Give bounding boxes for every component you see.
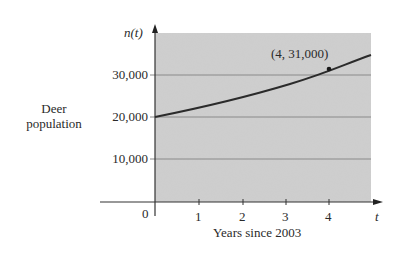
y-axis-function-label: n(t) [124,26,143,40]
data-point-4-31000 [327,67,332,72]
y-tick-label-10000: 10,000 [78,152,148,166]
origin-label: 0 [142,207,149,221]
y-tick-label-30000: 30,000 [78,68,148,82]
y-axis-title-line1: Deer [14,101,94,116]
x-tick-label-2: 2 [239,210,246,224]
x-axis-title: Years since 2003 [213,226,301,240]
x-tick-label-1: 1 [195,210,202,224]
y-axis-title: Deer population [14,101,94,131]
point-annotation: (4, 31,000) [271,47,328,61]
x-tick-label-3: 3 [282,210,289,224]
x-tick-label-4: 4 [325,210,332,224]
x-axis-variable-label: t [375,210,379,224]
y-axis-arrow-icon [152,24,158,33]
y-axis-title-line2: population [14,116,94,131]
x-axis-arrow-icon [373,199,383,205]
